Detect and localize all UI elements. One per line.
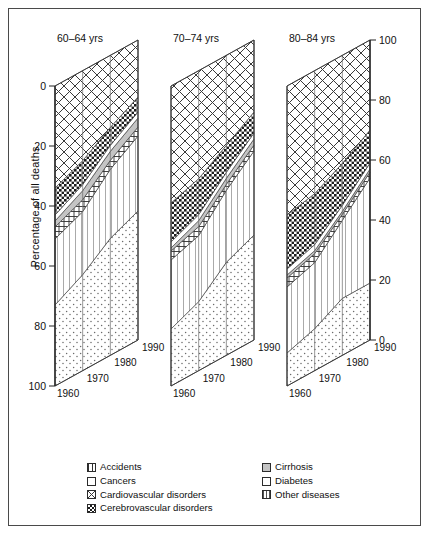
legend-item-cerebrovascular[interactable]: Cerebrovascular disorders [87,502,267,515]
legend-label-cerebrovascular: Cerebrovascular disorders [100,502,213,515]
panel-title-3: 80–84 yrs [289,32,335,44]
legend-item-cancers[interactable]: Cancers [87,475,267,488]
legend-item-cirrhosis[interactable]: Cirrhosis [262,461,407,474]
year-tick-label: 1970 [87,373,110,384]
year-tick-label: 1960 [57,388,80,399]
year-tick-label: 1960 [173,388,196,399]
legend-item-accidents[interactable]: Accidents [87,461,267,474]
right-axis-tick-label: 60 [379,154,391,166]
right-axis-tick-label: 40 [379,214,391,226]
panel-title-1: 60–64 yrs [57,32,103,44]
stacked-area-chart: 196019701980199060–64 yrs196019701980199… [9,9,420,525]
legend-item-cardiovascular[interactable]: Cardiovascular disorders [87,489,267,502]
year-tick-label: 1980 [230,357,253,368]
legend-label-diabetes: Diabetes [275,475,313,488]
cardiovascular-swatch-icon [87,490,96,499]
left-axis-tick-label: 40 [34,200,46,212]
year-tick-label: 1970 [319,373,342,384]
right-axis-tick-label: 100 [379,34,397,46]
legend-item-diabetes[interactable]: Diabetes [262,475,407,488]
cirrhosis-swatch-icon [262,463,271,472]
legend-label-cardiovascular: Cardiovascular disorders [100,489,206,502]
figure-frame: Percentage of all deaths [8,8,421,526]
left-axis-tick-label: 100 [28,380,46,392]
accidents-swatch-icon [87,463,96,472]
left-axis-tick-label: 60 [34,260,46,272]
legend-label-cancers: Cancers [100,475,136,488]
legend-label-other-diseases: Other diseases [275,489,340,502]
panel-title-2: 70–74 yrs [173,32,219,44]
right-axis-tick-label: 20 [379,274,391,286]
year-tick-label: 1990 [374,342,397,353]
other-diseases-swatch-icon [262,490,271,499]
year-tick-label: 1960 [289,388,312,399]
legend-label-accidents: Accidents [100,461,142,474]
cerebrovascular-swatch-icon [87,504,96,513]
year-tick-label: 1980 [346,357,369,368]
legend-column-right: Cirrhosis Diabetes Other diseases [262,461,407,502]
year-tick-label: 1980 [114,357,137,368]
year-tick-label: 1990 [142,342,165,353]
right-axis-tick-label: 0 [379,334,385,346]
legend-item-other-diseases[interactable]: Other diseases [262,489,407,502]
chart-legend: Accidents Cancers Cardiovascular disorde… [87,461,405,523]
left-axis-tick-label: 20 [34,140,46,152]
year-tick-label: 1970 [203,373,226,384]
legend-label-cirrhosis: Cirrhosis [275,461,313,474]
left-axis-tick-label: 80 [34,320,46,332]
legend-column-left: Accidents Cancers Cardiovascular disorde… [87,461,267,516]
diabetes-swatch-icon [262,477,271,486]
figure-root: Percentage of all deaths [0,0,429,534]
year-tick-label: 1990 [258,342,281,353]
right-axis-tick-label: 80 [379,94,391,106]
left-axis-tick-label: 0 [40,80,46,92]
cancers-swatch-icon [87,477,96,486]
